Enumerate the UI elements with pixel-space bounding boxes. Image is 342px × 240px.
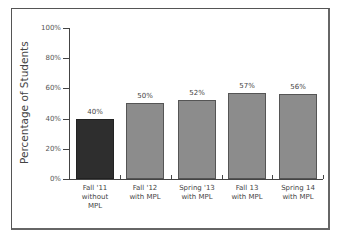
- y-tick-label: 0%: [31, 175, 61, 183]
- x-category-label: Fall '12with MPL: [120, 184, 170, 202]
- bar: [228, 93, 266, 179]
- bar-value-label: 52%: [177, 89, 217, 97]
- x-tick: [171, 175, 172, 179]
- y-tick-label: 40%: [31, 115, 61, 123]
- x-tick: [323, 175, 324, 179]
- bar: [76, 119, 114, 179]
- y-axis-label: Percentage of Students: [18, 44, 32, 164]
- y-tick-label: 60%: [31, 84, 61, 92]
- bar-value-label: 50%: [125, 92, 165, 100]
- x-category-label: Spring '13with MPL: [172, 184, 222, 202]
- x-axis-line: [64, 179, 323, 180]
- y-tick-label: 20%: [31, 145, 61, 153]
- x-tick: [272, 175, 273, 179]
- y-tick-label: 100%: [31, 24, 61, 32]
- y-axis-line: [69, 28, 70, 179]
- x-category-label: Fall '11withoutMPL: [70, 184, 120, 211]
- bar: [279, 94, 317, 179]
- bar-value-label: 56%: [278, 83, 318, 91]
- x-tick: [222, 175, 223, 179]
- y-tick-label: 80%: [31, 54, 61, 62]
- bar: [126, 103, 164, 179]
- x-tick: [120, 175, 121, 179]
- x-category-label: Fall 13with MPL: [222, 184, 272, 202]
- bar: [178, 100, 216, 179]
- bar-value-label: 40%: [75, 108, 115, 116]
- bar-value-label: 57%: [227, 82, 267, 90]
- x-category-label: Spring 14with MPL: [273, 184, 323, 202]
